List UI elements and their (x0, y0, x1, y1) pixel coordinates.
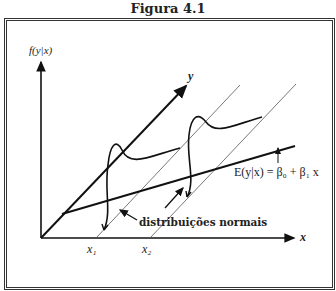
annotation-arrow-2 (165, 188, 183, 208)
curves-annotation: distribuições normais (139, 216, 267, 228)
normal-curve-2 (187, 117, 262, 197)
horizontal-axis-label: x (300, 230, 306, 245)
vertical-axis-label: f(y|x) (29, 44, 52, 56)
annotation-arrow-1 (120, 210, 137, 220)
regression-equation: E(y|x) = β₀ + β₁ x (234, 165, 319, 180)
x2-label: x₂ (142, 242, 152, 257)
x1-label: x₁ (87, 242, 97, 257)
diagonal-axis-label: y (188, 69, 193, 84)
x2-guide-line (150, 84, 296, 238)
